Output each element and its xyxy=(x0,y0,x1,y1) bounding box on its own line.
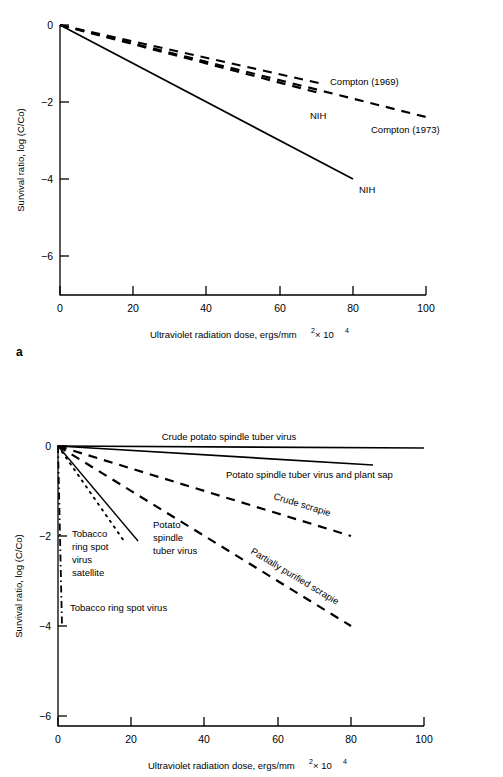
y-tick-label: −2 xyxy=(39,530,51,542)
series-line-compton-1973 xyxy=(60,25,426,117)
svg-text:Potato: Potato xyxy=(153,519,180,530)
x-tick-labels-b: 0 20 40 60 80 100 xyxy=(55,733,433,745)
x-tick-labels-a: 0 20 40 60 80 100 xyxy=(57,302,435,314)
x-tick-label: 20 xyxy=(125,733,137,745)
x-tick-label: 0 xyxy=(55,733,61,745)
figure-ultraviolet-inactivation: 0 20 40 60 80 100 0 −2 −4 −6 Surviv xyxy=(0,0,503,777)
y-tick-label: 0 xyxy=(47,19,53,31)
panel-b: 0 20 40 60 80 100 0 −2 −4 −6 Surviv xyxy=(0,390,503,777)
x-axis-title: Ultraviolet radiation dose, ergs/mm 2 × … xyxy=(148,758,347,771)
x-axis-title-times: × 10 xyxy=(315,329,334,340)
x-tick-label: 60 xyxy=(272,733,284,745)
axis-lines-a xyxy=(60,25,426,295)
x-tick-label: 20 xyxy=(127,302,139,314)
series-line-potato-spindle-tuber-virus-and-plant-sap xyxy=(58,446,373,465)
series-line-tobacco-ring-spot-virus-satellite xyxy=(58,446,124,541)
x-ticks-b xyxy=(58,717,424,726)
series-line-potato-spindle-tuber-virus xyxy=(58,446,138,541)
series-label-crude-potato-spindle-tuber-virus: Crude potato spindle tuber virus xyxy=(162,431,297,442)
svg-text:spindle: spindle xyxy=(153,532,183,543)
series-label-potato-spindle-tuber-virus-and-plant-sap: Potato spindle tuber virus and plant sap xyxy=(226,469,393,480)
y-tick-label: 0 xyxy=(45,440,51,452)
y-axis-title: Survival ratio, log (C/Co) xyxy=(15,108,26,211)
x-axis-title-sup2: 4 xyxy=(345,327,349,334)
svg-text:Tobacco: Tobacco xyxy=(72,528,107,539)
x-axis-title-main: Ultraviolet radiation dose, ergs/mm xyxy=(148,760,295,771)
series-label-tobacco-ring-spot-virus: Tobacco ring spot virus xyxy=(70,602,167,613)
y-ticks-a xyxy=(60,25,69,256)
chart-a: 0 20 40 60 80 100 0 −2 −4 −6 Surviv xyxy=(0,0,503,390)
series-label-tobacco-ring-spot-virus-satellite: Tobacco ring spot virus satellite xyxy=(72,528,109,578)
x-axis-title-times: × 10 xyxy=(313,760,332,771)
x-axis-title-main: Ultraviolet radiation dose, ergs/mm xyxy=(150,329,297,340)
y-tick-labels-b: 0 −2 −4 −6 xyxy=(39,440,51,722)
y-tick-label: −2 xyxy=(41,96,53,108)
x-tick-label: 80 xyxy=(347,302,359,314)
x-tick-label: 60 xyxy=(274,302,286,314)
y-tick-label: −4 xyxy=(39,620,51,632)
x-ticks-a xyxy=(60,286,426,295)
x-axis-title-sup2: 4 xyxy=(343,758,347,765)
y-tick-label: −6 xyxy=(41,250,53,262)
y-tick-label: −4 xyxy=(41,173,53,185)
y-tick-label: −6 xyxy=(39,710,51,722)
series-label-partially-purified-scrapie: Partially purified scrapie xyxy=(249,545,341,606)
x-tick-label: 40 xyxy=(198,733,210,745)
x-tick-label: 100 xyxy=(415,733,433,745)
x-tick-label: 80 xyxy=(345,733,357,745)
x-tick-label: 40 xyxy=(200,302,212,314)
series-label-nih-dashed: NIH xyxy=(310,110,327,121)
series-label-compton-1973: Compton (1973) xyxy=(371,124,440,135)
axis-lines-b xyxy=(58,446,424,726)
y-axis-title: Survival ratio, log (C/Co) xyxy=(13,534,24,637)
series-label-compton-1969: Compton (1969) xyxy=(330,76,399,87)
panel-letter-a: a xyxy=(16,346,23,358)
svg-text:tuber virus: tuber virus xyxy=(153,545,198,556)
series-line-crude-scrapie xyxy=(58,446,351,536)
x-tick-label: 0 xyxy=(57,302,63,314)
series-label-crude-scrapie: Crude scrapie xyxy=(272,490,332,518)
svg-text:satellite: satellite xyxy=(72,567,104,578)
series-line-nih-solid xyxy=(60,25,353,179)
y-tick-labels-a: 0 −2 −4 −6 xyxy=(41,19,53,262)
x-axis-title: Ultraviolet radiation dose, ergs/mm 2 × … xyxy=(150,327,349,340)
svg-text:virus: virus xyxy=(72,554,92,565)
series-line-crude-potato-spindle-tuber-virus xyxy=(58,446,424,448)
x-tick-label: 100 xyxy=(417,302,435,314)
svg-text:ring spot: ring spot xyxy=(72,541,109,552)
panel-a: 0 20 40 60 80 100 0 −2 −4 −6 Surviv xyxy=(0,0,503,390)
y-ticks-b xyxy=(58,446,67,716)
series-label-nih-solid: NIH xyxy=(359,184,376,195)
series-label-potato-spindle-tuber-virus: Potato spindle tuber virus xyxy=(153,519,198,556)
chart-b: 0 20 40 60 80 100 0 −2 −4 −6 Surviv xyxy=(0,390,503,777)
